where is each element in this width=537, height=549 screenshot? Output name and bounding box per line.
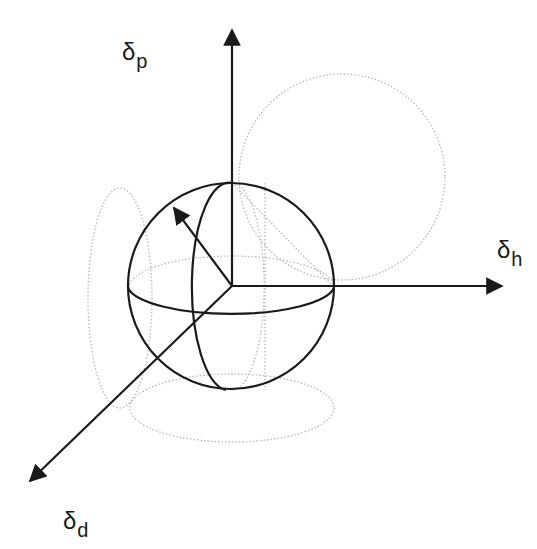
hansen-sphere-diagram: δp δh δd bbox=[0, 0, 537, 549]
projection-group bbox=[88, 74, 445, 442]
label-dp-sub: p bbox=[136, 50, 147, 72]
label-dd: δd bbox=[63, 509, 88, 533]
projection-ph-circle bbox=[239, 74, 445, 280]
label-dp-symbol: δ bbox=[122, 38, 135, 65]
vector-arrow bbox=[174, 208, 232, 286]
label-dp: δp bbox=[122, 40, 147, 64]
label-dh-symbol: δ bbox=[497, 236, 510, 263]
axes bbox=[30, 30, 502, 481]
label-dd-symbol: δ bbox=[63, 507, 76, 534]
sphere-meridian-front bbox=[192, 183, 232, 390]
diagram-svg bbox=[0, 0, 537, 549]
label-dh: δh bbox=[497, 238, 522, 262]
label-dd-sub: d bbox=[77, 519, 88, 541]
label-dh-sub: h bbox=[511, 248, 522, 270]
projection-hd-ellipse bbox=[130, 374, 334, 442]
projection-pd-ellipse bbox=[88, 188, 152, 408]
axis-dd-lowerleft bbox=[30, 286, 232, 481]
sphere-equator-front bbox=[128, 288, 334, 314]
